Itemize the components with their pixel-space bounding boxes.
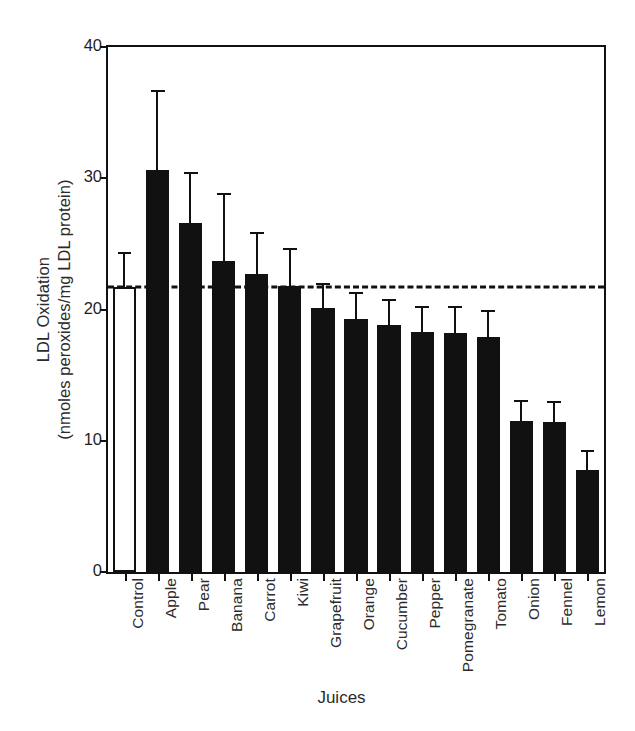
bar-pear — [179, 223, 202, 572]
x-axis-title: Juices — [0, 688, 635, 708]
error-cap-grapefruit — [316, 283, 330, 285]
error-cap-onion — [514, 400, 528, 402]
error-cap-carrot — [250, 232, 264, 234]
bar-onion — [510, 421, 533, 572]
error-cap-apple — [151, 90, 165, 92]
y-tick-mark — [100, 440, 108, 442]
error-cap-control — [118, 252, 132, 254]
error-bar-pepper — [421, 306, 423, 332]
bar-control — [113, 287, 136, 572]
bar-orange — [344, 319, 367, 572]
error-cap-pomegranate — [448, 306, 462, 308]
bar-fennel — [543, 422, 566, 572]
error-cap-cucumber — [382, 299, 396, 301]
error-cap-pear — [184, 172, 198, 174]
error-cap-fennel — [547, 401, 561, 403]
bar-carrot — [245, 274, 268, 572]
bar-kiwi — [278, 286, 301, 572]
error-bar-cucumber — [388, 299, 390, 325]
error-cap-lemon — [581, 450, 595, 452]
bar-tomato — [477, 337, 500, 572]
y-tick-label: 10 — [68, 429, 102, 448]
y-tick-mark — [100, 309, 108, 311]
y-tick-label: 0 — [68, 561, 102, 580]
y-tick-label: 40 — [68, 36, 102, 55]
error-cap-orange — [349, 292, 363, 294]
bar-pomegranate — [444, 333, 467, 572]
error-bar-lemon — [586, 450, 588, 470]
y-tick-label: 20 — [68, 298, 102, 317]
error-bar-pomegranate — [454, 306, 456, 334]
y-tick-mark — [100, 571, 108, 573]
plot-area — [106, 45, 606, 574]
error-bar-fennel — [553, 401, 555, 422]
error-cap-banana — [217, 193, 231, 195]
chart-figure: LDL Oxidation (nmoles peroxides/mg LDL p… — [0, 0, 635, 731]
bar-cucumber — [377, 325, 400, 572]
error-cap-pepper — [415, 306, 429, 308]
error-bar-kiwi — [289, 248, 291, 286]
y-axis-tick-labels: 010203040 — [62, 0, 102, 731]
error-bar-onion — [520, 400, 522, 421]
y-tick-mark — [100, 46, 108, 48]
error-bar-apple — [156, 90, 158, 170]
error-bar-control — [123, 252, 125, 287]
error-bar-grapefruit — [322, 283, 324, 308]
bar-grapefruit — [311, 308, 334, 572]
error-bar-orange — [355, 292, 357, 318]
y-axis-title-line1: LDL Oxidation — [32, 180, 53, 440]
error-bar-tomato — [487, 310, 489, 338]
error-cap-kiwi — [283, 248, 297, 250]
bar-lemon — [576, 470, 599, 572]
error-cap-tomato — [481, 310, 495, 312]
x-axis-tick-labels: ControlApplePearBananaCarrotKiwiGrapefru… — [106, 578, 602, 688]
bar-banana — [212, 261, 235, 572]
y-tick-mark — [100, 177, 108, 179]
error-bar-pear — [189, 172, 191, 223]
bar-apple — [146, 170, 169, 572]
bar-pepper — [411, 332, 434, 572]
error-bar-carrot — [256, 232, 258, 274]
error-bar-banana — [223, 193, 225, 261]
y-tick-label: 30 — [68, 167, 102, 186]
